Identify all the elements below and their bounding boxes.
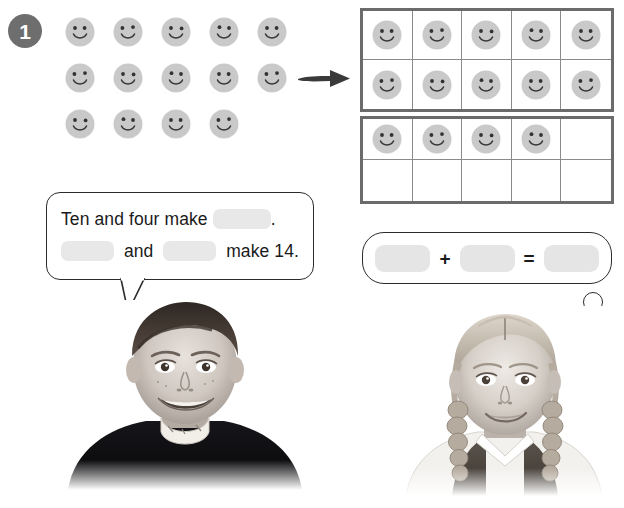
ten-frame-cell-filled[interactable] [462, 11, 512, 60]
speech-line2-text-after: make 14. [226, 241, 299, 262]
smiley-face-icon [64, 62, 96, 94]
ten-frame-bottom [360, 116, 614, 204]
smiley-face-icon [208, 16, 240, 48]
ten-frame-cell-filled[interactable] [561, 60, 611, 109]
smiley-face-icon [112, 108, 144, 140]
smiley-face-icon [208, 108, 240, 140]
counter-row-1 [56, 16, 296, 48]
speech-line1-answer-blank[interactable] [213, 209, 271, 229]
ten-frame-cell-filled[interactable] [363, 60, 413, 109]
photo-girl [382, 306, 622, 496]
smiley-face-icon [470, 123, 502, 155]
counter-slot [248, 16, 296, 48]
right-arrow-icon [296, 64, 352, 92]
smiley-face-icon [470, 19, 502, 51]
smiley-face-icon [160, 108, 192, 140]
ten-frame-cell-filled[interactable] [512, 119, 562, 160]
ten-frame-cell-filled[interactable] [363, 119, 413, 160]
ten-frame-cell-empty[interactable] [512, 160, 562, 201]
ten-frame-cell-filled[interactable] [413, 11, 463, 60]
smiley-face-icon [256, 16, 288, 48]
ten-frame-cell-filled[interactable] [561, 11, 611, 60]
ten-frame-cell-filled[interactable] [363, 11, 413, 60]
counter-row-3 [56, 108, 248, 140]
smiley-face-icon [256, 62, 288, 94]
ten-frame-top [360, 8, 614, 112]
counter-slot [104, 16, 152, 48]
exercise-number-label: 1 [19, 21, 31, 42]
equation-plus-sign: + [439, 249, 450, 268]
counter-slot [56, 108, 104, 140]
smiley-face-icon [520, 19, 552, 51]
ten-frame-cell-empty[interactable] [363, 160, 413, 201]
smiley-face-icon [371, 69, 403, 101]
equation-sum-blank[interactable] [544, 245, 599, 272]
ten-frame-cell-filled[interactable] [512, 60, 562, 109]
speech-bubble-line-2: and make 14. [61, 235, 299, 267]
smiley-face-icon [421, 123, 453, 155]
ten-frame-cell-filled[interactable] [413, 119, 463, 160]
speech-bubble: Ten and four make . and make 14. [46, 192, 314, 280]
thought-bubble-equation: + = [362, 232, 612, 284]
ten-frame-cell-empty[interactable] [561, 119, 611, 160]
speech-line2-answer-blank-1[interactable] [61, 241, 114, 261]
ten-frame-cell-filled[interactable] [462, 119, 512, 160]
smiley-face-icon [64, 16, 96, 48]
ten-frame-cell-filled[interactable] [462, 60, 512, 109]
smiley-face-icon [570, 69, 602, 101]
counter-slot [152, 16, 200, 48]
speech-line1-text-before: Ten and four make [61, 209, 208, 230]
smiley-face-icon [160, 62, 192, 94]
ten-frame-cell-empty[interactable] [462, 160, 512, 201]
smiley-face-icon [371, 19, 403, 51]
smiley-face-icon [470, 69, 502, 101]
ten-frame-cell-filled[interactable] [413, 60, 463, 109]
counter-slot [56, 62, 104, 94]
smiley-face-icon [520, 69, 552, 101]
smiley-face-icon [112, 62, 144, 94]
equation-addend-1-blank[interactable] [375, 245, 430, 272]
photo-boy [62, 300, 308, 490]
counter-slot [152, 62, 200, 94]
equation-addend-2-blank[interactable] [460, 245, 515, 272]
smiley-face-icon [520, 123, 552, 155]
counter-slot [248, 62, 296, 94]
smiley-face-icon [421, 19, 453, 51]
smiley-face-icon [421, 69, 453, 101]
ten-frame-cell-empty[interactable] [413, 160, 463, 201]
ten-frame-cell-empty[interactable] [561, 160, 611, 201]
speech-line1-text-after: . [271, 209, 276, 230]
counter-slot [104, 62, 152, 94]
smiley-face-icon [371, 123, 403, 155]
counter-slot [104, 108, 152, 140]
counter-slot [152, 108, 200, 140]
exercise-number-badge: 1 [8, 14, 42, 48]
smiley-face-icon [208, 62, 240, 94]
speech-line2-answer-blank-2[interactable] [163, 241, 216, 261]
equation-equals-sign: = [524, 249, 535, 268]
ten-frame-cell-filled[interactable] [512, 11, 562, 60]
speech-line2-text-middle: and [124, 241, 154, 262]
smiley-face-icon [64, 108, 96, 140]
speech-bubble-line-1: Ten and four make . [61, 203, 299, 235]
counter-slot [200, 16, 248, 48]
smiley-face-icon [570, 19, 602, 51]
counter-slot [200, 62, 248, 94]
counter-row-2 [56, 62, 296, 94]
counter-slot [200, 108, 248, 140]
smiley-face-icon [160, 16, 192, 48]
smiley-face-icon [112, 16, 144, 48]
counter-slot [56, 16, 104, 48]
